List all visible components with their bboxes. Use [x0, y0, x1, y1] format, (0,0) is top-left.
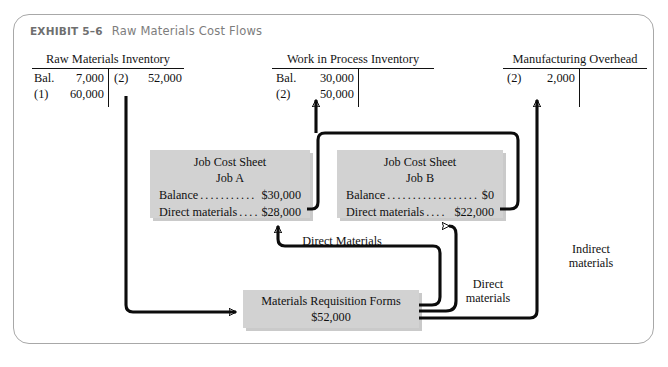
wire-requisition-to-job-b — [419, 226, 456, 311]
flow-connectors — [0, 0, 668, 367]
wire-requisition-to-job-a — [278, 226, 440, 305]
wire-job-b-to-work-in-process — [325, 133, 518, 209]
exhibit-page: EXHIBIT 5–6Raw Materials Cost Flows Raw … — [0, 0, 668, 367]
wire-job-a-to-work-in-process — [307, 133, 325, 209]
wire-raw-materials-to-requisition — [126, 96, 236, 312]
